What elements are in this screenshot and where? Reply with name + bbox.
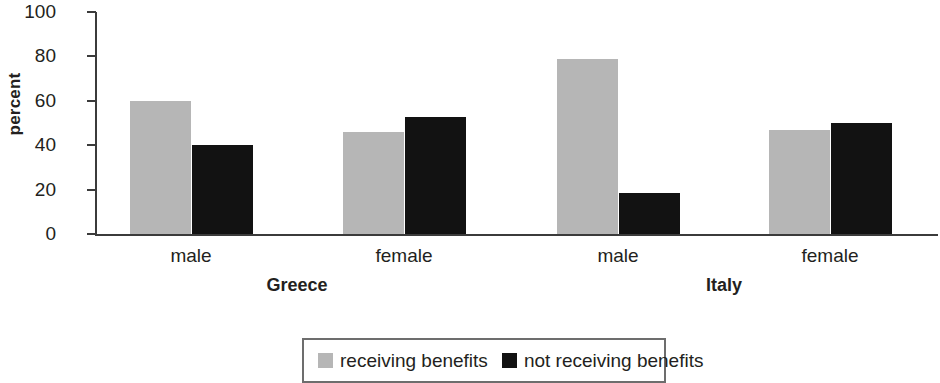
bar-italy-male-receiving: [557, 59, 618, 234]
legend-entry: receiving benefits: [318, 350, 488, 372]
legend: receiving benefitsnot receiving benefits: [302, 338, 666, 383]
y-axis-line: [95, 12, 97, 236]
y-axis-tick-label: 0: [0, 224, 56, 243]
bar-italy-male-not-receiving: [619, 193, 680, 234]
bar-greece-male-receiving: [130, 101, 191, 234]
y-axis-tick: [87, 55, 96, 57]
y-axis-tick: [87, 144, 96, 146]
y-axis-tick-label: 100: [0, 2, 56, 21]
group-label-greece: Greece: [217, 275, 377, 296]
group-label-italy: Italy: [644, 275, 804, 296]
legend-swatch-icon: [502, 353, 517, 368]
bar-greece-female-receiving: [343, 132, 404, 234]
y-axis-tick-label: 80: [0, 46, 56, 65]
legend-label: not receiving benefits: [524, 350, 704, 372]
y-axis-tick: [87, 233, 96, 235]
legend-swatch-icon: [318, 353, 333, 368]
legend-entry: not receiving benefits: [502, 350, 704, 372]
y-axis-tick-label: 40: [0, 135, 56, 154]
bar-greece-male-not-receiving: [192, 145, 253, 234]
bar-italy-female-not-receiving: [831, 123, 892, 234]
legend-label: receiving benefits: [340, 350, 488, 372]
bar-greece-female-not-receiving: [405, 117, 466, 234]
x-axis-label-female: female: [770, 245, 890, 267]
x-axis-label-female: female: [344, 245, 464, 267]
x-axis-line: [95, 234, 938, 236]
y-axis-tick: [87, 189, 96, 191]
x-axis-label-male: male: [131, 245, 251, 267]
y-axis-tick-label: 20: [0, 180, 56, 199]
legend-items: receiving benefitsnot receiving benefits: [318, 350, 703, 372]
y-axis-tick-label: 60: [0, 91, 56, 110]
x-axis-label-male: male: [558, 245, 678, 267]
y-axis-tick: [87, 100, 96, 102]
y-axis-tick: [87, 11, 96, 13]
bar-italy-female-receiving: [769, 130, 830, 234]
